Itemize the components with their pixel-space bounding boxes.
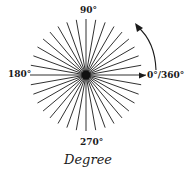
- degree-diagram: [0, 0, 186, 177]
- counterclockwise-arrow-icon: [135, 23, 156, 70]
- label-0-360-degrees: 0°/360°: [147, 71, 184, 80]
- label-270-degrees: 270°: [80, 138, 103, 147]
- center-hub: [82, 71, 91, 80]
- label-90-degrees: 90°: [80, 6, 97, 15]
- zero-degree-arrowhead-icon: [139, 73, 146, 79]
- diagram-caption: Degree: [64, 153, 112, 166]
- label-180-degrees: 180°: [8, 70, 31, 79]
